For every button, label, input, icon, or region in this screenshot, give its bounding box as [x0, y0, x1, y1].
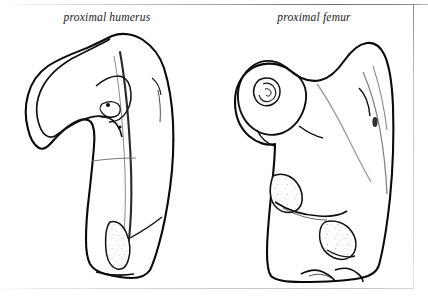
frame-rule-top	[0, 4, 428, 5]
figure-container: proximal humerus proximal femur	[0, 0, 428, 299]
frame-rule-bottom	[0, 288, 414, 289]
illustration-proximal-humerus	[10, 26, 210, 284]
caption-proximal-femur: proximal femur	[214, 11, 414, 23]
caption-proximal-humerus: proximal humerus	[0, 11, 214, 23]
fossa-shadow	[372, 117, 377, 127]
frame-rule-right	[413, 4, 414, 289]
foramen-mark	[119, 126, 122, 129]
illustration-proximal-femur	[213, 26, 413, 284]
nutrient-foramen	[106, 103, 110, 107]
